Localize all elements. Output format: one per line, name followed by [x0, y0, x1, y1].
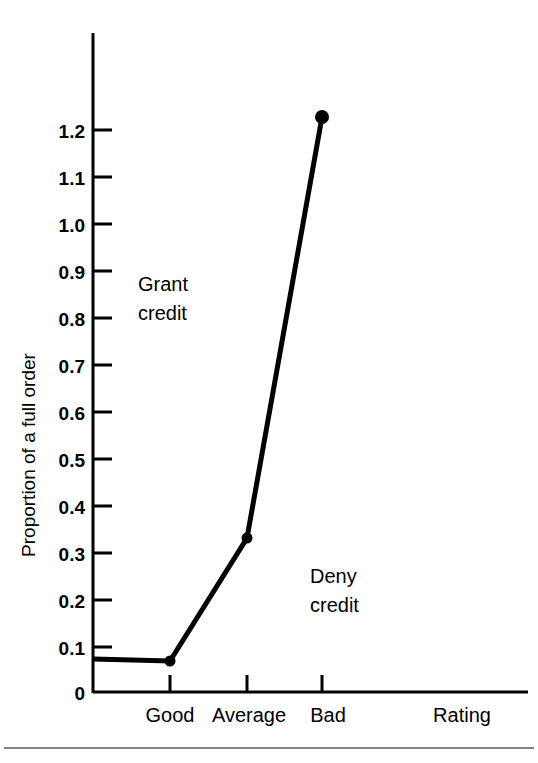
data-point-good: [165, 656, 176, 667]
y-tick-label-1.2: 1.2: [59, 121, 85, 142]
x-axis-title: Rating: [433, 704, 491, 726]
y-tick-label-0.3: 0.3: [59, 544, 85, 565]
x-axis-tick-labels: Good Average Bad: [146, 704, 346, 726]
credit-rating-chart-figure: 1.2 1.1 1.0 0.9 0.8 0.7 0.6 0.5 0.4 0.3 …: [0, 0, 538, 763]
annotation-grant-line2: credit: [138, 302, 187, 324]
y-tick-label-0.1: 0.1: [59, 638, 86, 659]
y-tick-label-0.4: 0.4: [59, 497, 86, 518]
y-tick-label-0: 0: [74, 683, 85, 704]
annotation-grant-line1: Grant: [138, 273, 188, 295]
y-tick-label-0.6: 0.6: [59, 403, 85, 424]
y-tick-label-0.2: 0.2: [59, 591, 85, 612]
x-tick-label-average: Average: [212, 704, 286, 726]
chart-svg: 1.2 1.1 1.0 0.9 0.8 0.7 0.6 0.5 0.4 0.3 …: [0, 0, 538, 763]
y-axis-title: Proportion of a full order: [18, 352, 39, 557]
y-tick-label-0.7: 0.7: [59, 356, 85, 377]
data-point-average: [242, 533, 253, 544]
data-point-bad: [315, 110, 329, 124]
y-tick-label-1.1: 1.1: [59, 168, 86, 189]
x-tick-label-bad: Bad: [310, 704, 346, 726]
y-tick-label-0.5: 0.5: [59, 450, 86, 471]
y-tick-label-0.8: 0.8: [59, 309, 85, 330]
x-tick-label-good: Good: [146, 704, 195, 726]
annotation-deny-line2: credit: [310, 594, 359, 616]
y-tick-label-0.9: 0.9: [59, 262, 85, 283]
y-tick-label-1.0: 1.0: [59, 215, 85, 236]
annotation-deny-line1: Deny: [310, 565, 357, 587]
